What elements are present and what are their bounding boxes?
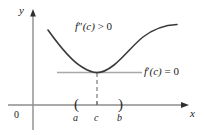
interval-open-paren-marker: (: [74, 97, 79, 112]
origin-label: 0: [14, 110, 19, 120]
tangent-relation: = 0: [162, 65, 179, 77]
point-label-a: a: [73, 113, 78, 123]
y-axis-label: y: [19, 5, 24, 16]
tangent-annotation: f′(c) = 0: [144, 66, 179, 77]
tangent-argument: (c): [149, 65, 161, 77]
interval-close-paren-marker: ): [118, 97, 123, 112]
concavity-argument: (c): [83, 20, 95, 32]
x-axis-arrow-icon: [181, 102, 189, 108]
y-axis-arrow-icon: [30, 9, 36, 17]
point-label-b: b: [117, 113, 122, 123]
point-label-c: c: [94, 113, 98, 123]
concavity-annotation: f″(c) > 0: [75, 21, 112, 32]
figure-container: ( ) y x 0 a c b f″(c) > 0 f′(c) = 0: [0, 0, 205, 135]
x-axis-label: x: [190, 108, 195, 119]
concavity-relation: > 0: [95, 20, 112, 32]
